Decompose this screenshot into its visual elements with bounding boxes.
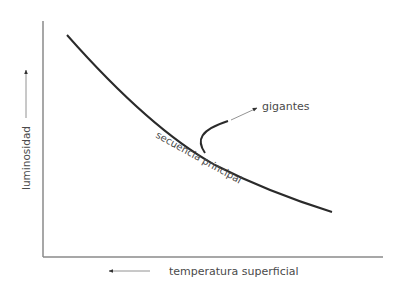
giants-arrow-icon bbox=[231, 108, 257, 120]
y-axis-label: luminosidad bbox=[20, 126, 32, 190]
giant-branch-curve bbox=[201, 121, 228, 153]
hr-diagram: gigantes secuencia principal luminosidad… bbox=[0, 0, 398, 292]
giants-label: gigantes bbox=[262, 100, 310, 113]
main-sequence-label: secuencia principal bbox=[154, 129, 244, 185]
main-sequence-curve bbox=[67, 35, 332, 212]
x-axis-label: temperatura superficial bbox=[169, 265, 299, 278]
